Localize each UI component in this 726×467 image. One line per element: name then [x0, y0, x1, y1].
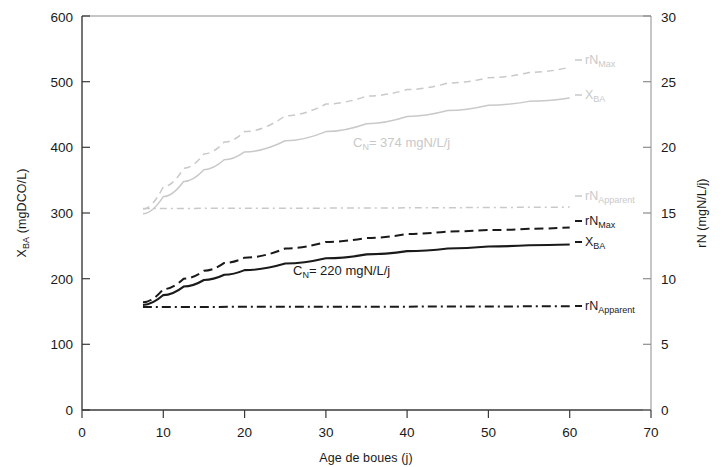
y-axis-title-rest: (mgDCO/L): [15, 168, 29, 236]
ytick-500: 500: [50, 75, 73, 90]
ytick-600: 600: [50, 10, 73, 25]
ytick-0: 0: [65, 403, 73, 418]
y-axis-title: XBA (mgDCO/L): [15, 168, 31, 257]
y2tick-5: 5: [661, 337, 669, 352]
chart-svg: 0 100 200 300 400 500 600 0 5 10 15 20 2…: [0, 0, 726, 467]
y2-axis-title: rN (mgN/L/j): [695, 178, 709, 247]
svg-text:rN (mgN/L/j): rN (mgN/L/j): [695, 178, 709, 247]
x-axis-title: Age de boues (j): [319, 451, 412, 465]
x-axis-tick-labels: 0 10 20 30 40 50 60 70: [78, 425, 658, 440]
ytick-300: 300: [50, 206, 73, 221]
xtick-60: 60: [562, 425, 577, 440]
y2tick-0: 0: [661, 403, 669, 418]
xtick-10: 10: [156, 425, 171, 440]
ytick-100: 100: [50, 337, 73, 352]
ytick-400: 400: [50, 140, 73, 155]
y2tick-20: 20: [661, 140, 676, 155]
annotation-374-rest: = 374 mgN/L/j: [369, 135, 450, 150]
plot-frame: [82, 16, 651, 410]
xtick-0: 0: [78, 425, 86, 440]
y2tick-30: 30: [661, 10, 676, 25]
annotation-220-rest: = 220 mgN/L/j: [309, 263, 390, 278]
y2tick-10: 10: [661, 272, 676, 287]
ytick-200: 200: [50, 272, 73, 287]
xtick-40: 40: [400, 425, 415, 440]
right-axis-tick-labels: 0 5 10 15 20 25 30: [661, 10, 676, 418]
xtick-50: 50: [481, 425, 496, 440]
y2tick-15: 15: [661, 206, 676, 221]
xtick-20: 20: [237, 425, 252, 440]
chart-figure: 0 100 200 300 400 500 600 0 5 10 15 20 2…: [0, 0, 726, 467]
annotation-220-main: C: [293, 263, 302, 278]
xtick-30: 30: [318, 425, 333, 440]
y-axis-title-sub: BA: [21, 237, 31, 249]
x-axis-ticks: [82, 410, 651, 418]
annotation-374-main: C: [353, 135, 362, 150]
series-path-5: [143, 306, 570, 307]
y2tick-25: 25: [661, 75, 676, 90]
svg-text:XBA (mgDCO/L): XBA (mgDCO/L): [15, 168, 31, 257]
xtick-70: 70: [643, 425, 658, 440]
left-axis-tick-labels: 0 100 200 300 400 500 600: [50, 10, 73, 418]
